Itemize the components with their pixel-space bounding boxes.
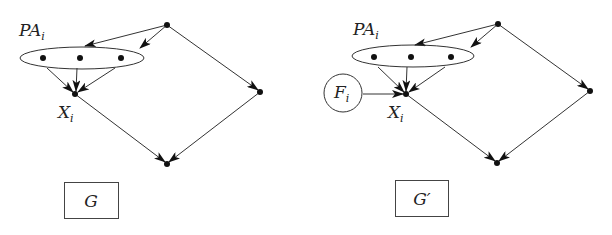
- node-xi: [403, 91, 409, 97]
- node-parent-1: [371, 54, 377, 60]
- node-parent-3: [448, 54, 454, 60]
- edge-right-to-bottom: [169, 92, 260, 162]
- parent-set-label: PAi: [352, 19, 379, 42]
- edge-parent3-to-xi: [409, 67, 445, 92]
- node-right: [257, 89, 263, 95]
- target-label: Xi: [56, 102, 74, 125]
- parent-set-label: PAi: [18, 20, 45, 43]
- node-xi: [72, 91, 78, 97]
- edge-parent2-to-xi: [406, 67, 407, 91]
- edge-xi-to-bottom: [406, 94, 495, 161]
- edge-parent1-to-xi: [47, 68, 73, 92]
- node-parent-1: [40, 55, 46, 61]
- node-bottom: [164, 161, 170, 167]
- causal-graphs-figure: PAi Xi G PAi Xi Fi: [0, 0, 612, 235]
- intervention-label: Fi: [333, 82, 349, 105]
- target-label: Xi: [386, 102, 404, 125]
- node-parent-3: [118, 55, 124, 61]
- node-top: [495, 21, 501, 27]
- graph-g-prime: PAi Xi Fi G′: [324, 19, 593, 217]
- edge-top-to-right: [498, 24, 588, 89]
- edge-parent1-to-xi: [378, 67, 404, 92]
- edge-parent2-to-xi: [76, 68, 77, 91]
- graph-caption: G: [84, 191, 98, 211]
- node-right: [587, 88, 593, 94]
- edge-xi-to-bottom: [75, 94, 165, 162]
- node-bottom: [494, 160, 500, 166]
- edge-right-to-bottom: [499, 91, 590, 161]
- graph-g: PAi Xi G: [18, 20, 263, 219]
- edge-parent3-to-xi: [78, 68, 115, 92]
- node-top: [164, 22, 170, 28]
- node-parent-2: [408, 54, 414, 60]
- edge-top-to-right: [167, 25, 258, 90]
- node-parent-2: [77, 55, 83, 61]
- graph-caption: G′: [413, 189, 431, 209]
